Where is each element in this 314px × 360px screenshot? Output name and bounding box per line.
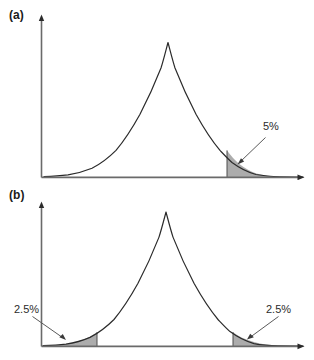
figure-root: (a) 5% bbox=[0, 0, 314, 360]
leader-line-right-2p5-b bbox=[251, 317, 279, 338]
panel-a-label: (a) bbox=[9, 9, 24, 21]
leader-arrowhead-right-2p5-b bbox=[247, 334, 254, 340]
leader-arrowhead-left-2p5-b bbox=[59, 334, 66, 340]
annotation-left-2-5-percent: 2.5% bbox=[14, 304, 39, 315]
leader-line-5pct-a bbox=[241, 138, 266, 162]
leader-line-left-2p5-b bbox=[33, 317, 63, 338]
panel-a: (a) 5% bbox=[0, 0, 314, 180]
normal-curve-a bbox=[44, 43, 303, 178]
panel-b-label: (b) bbox=[9, 189, 25, 201]
annotation-right-2-5-percent: 2.5% bbox=[266, 304, 291, 315]
panel-a-plot bbox=[0, 0, 314, 180]
panel-b-plot bbox=[0, 180, 314, 360]
x-axis-arrow-b bbox=[298, 343, 305, 349]
y-axis-arrow-a bbox=[39, 15, 44, 22]
y-axis-arrow-b bbox=[39, 202, 44, 209]
annotation-5-percent: 5% bbox=[263, 121, 279, 132]
normal-curve-b bbox=[43, 212, 303, 346]
panel-b: (b) 2.5% 2.5% bbox=[0, 180, 314, 360]
